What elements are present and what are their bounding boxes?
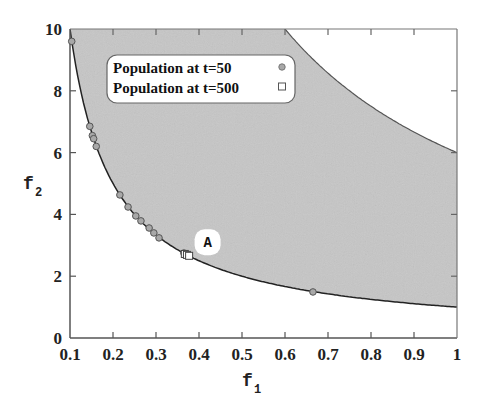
x-tick-label: 0.7 xyxy=(317,345,339,364)
y-tick-label: 4 xyxy=(54,205,63,224)
x-tick-label: 0.5 xyxy=(231,345,252,364)
circle-marker-icon xyxy=(93,143,100,150)
circle-marker-icon xyxy=(117,192,124,199)
legend-circle-marker-icon xyxy=(279,64,285,70)
y-tick-label: 2 xyxy=(54,267,63,286)
svg-text:f: f xyxy=(242,371,253,391)
x-tick-label: 1 xyxy=(453,345,462,364)
y-tick-label: 10 xyxy=(45,20,62,39)
circle-marker-icon xyxy=(151,230,158,237)
svg-text:f: f xyxy=(23,174,34,194)
y-axis-label: f 2 xyxy=(23,174,42,200)
circle-marker-icon xyxy=(132,213,139,220)
x-tick-label: 0.2 xyxy=(102,345,123,364)
circle-marker-icon xyxy=(156,235,163,242)
legend-label-t50: Population at t=50 xyxy=(113,60,232,76)
svg-text:1: 1 xyxy=(254,383,261,397)
x-tick-label: 0.9 xyxy=(403,345,424,364)
x-tick-label: 0.3 xyxy=(145,345,166,364)
circle-marker-icon xyxy=(90,135,97,142)
x-tick-label: 0.8 xyxy=(360,345,381,364)
circle-marker-icon xyxy=(138,218,145,225)
x-tick-label: 0.6 xyxy=(274,345,295,364)
pareto-scatter-chart: 0.10.20.30.40.50.60.70.80.91 0246810 A P… xyxy=(0,0,484,418)
y-tick-label: 6 xyxy=(54,144,63,163)
circle-marker-icon xyxy=(125,204,132,211)
square-marker-icon xyxy=(186,252,193,259)
y-tick-label: 0 xyxy=(54,329,63,348)
circle-marker-icon xyxy=(310,289,317,296)
circle-marker-icon xyxy=(86,123,93,130)
y-tick-label: 8 xyxy=(54,82,63,101)
legend: Population at t=50 Population at t=500 xyxy=(107,55,295,103)
svg-text:2: 2 xyxy=(35,186,42,200)
x-tick-label: 0.4 xyxy=(188,345,210,364)
annotation-label: A xyxy=(203,235,212,251)
circle-marker-icon xyxy=(68,38,75,45)
annotation-a: A xyxy=(195,229,221,255)
legend-label-t500: Population at t=500 xyxy=(113,80,239,96)
x-tick-label: 0.1 xyxy=(59,345,80,364)
x-axis-label: f 1 xyxy=(242,371,261,397)
legend-square-marker-icon xyxy=(279,83,286,90)
